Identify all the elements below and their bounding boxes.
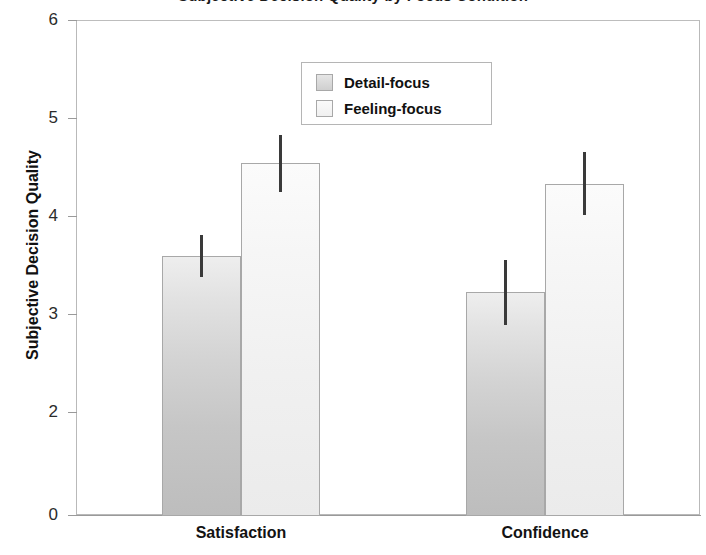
legend-label-feeling-focus: Feeling-focus bbox=[344, 100, 442, 117]
y-tick-label-6: 6 bbox=[30, 10, 58, 30]
legend-label-detail-focus: Detail-focus bbox=[344, 74, 430, 91]
y-tick-label-2: 2 bbox=[30, 402, 58, 422]
error-bar-satisfaction-feeling-focus bbox=[279, 135, 282, 192]
error-bar-satisfaction-detail-focus bbox=[200, 235, 203, 277]
bar-chart-figure: Subjective Decision Quality by Focus Con… bbox=[0, 0, 706, 555]
y-tick-label-0: 0 bbox=[30, 505, 58, 525]
bar-satisfaction-feeling-focus[interactable] bbox=[241, 163, 320, 516]
y-tick-mark-2 bbox=[68, 412, 77, 413]
bar-confidence-feeling-focus[interactable] bbox=[545, 184, 624, 516]
legend-item-detail-focus[interactable]: Detail-focus bbox=[316, 69, 491, 95]
x-axis-label-satisfaction: Satisfaction bbox=[162, 524, 320, 542]
y-tick-label-4: 4 bbox=[30, 206, 58, 226]
y-tick-mark-4 bbox=[68, 216, 77, 217]
error-bar-confidence-feeling-focus bbox=[583, 152, 586, 215]
error-bar-confidence-detail-focus bbox=[504, 260, 507, 325]
chart-title: Subjective Decision Quality by Focus Con… bbox=[0, 0, 706, 5]
y-tick-mark-3 bbox=[68, 314, 77, 315]
y-tick-label-5: 5 bbox=[30, 108, 58, 128]
bar-satisfaction-detail-focus[interactable] bbox=[162, 256, 241, 516]
legend-swatch-feeling-focus-icon bbox=[316, 100, 333, 117]
y-tick-label-3: 3 bbox=[30, 304, 58, 324]
y-tick-mark-6 bbox=[68, 20, 77, 21]
y-tick-mark-0 bbox=[68, 515, 77, 516]
legend-item-feeling-focus[interactable]: Feeling-focus bbox=[316, 95, 491, 121]
y-tick-mark-5 bbox=[68, 118, 77, 119]
y-axis-title: Subjective Decision Quality bbox=[24, 105, 42, 405]
legend-swatch-detail-focus-icon bbox=[316, 74, 333, 91]
x-axis-label-confidence: Confidence bbox=[466, 524, 624, 542]
bar-confidence-detail-focus[interactable] bbox=[466, 292, 545, 516]
legend: Detail-focus Feeling-focus bbox=[301, 62, 492, 125]
